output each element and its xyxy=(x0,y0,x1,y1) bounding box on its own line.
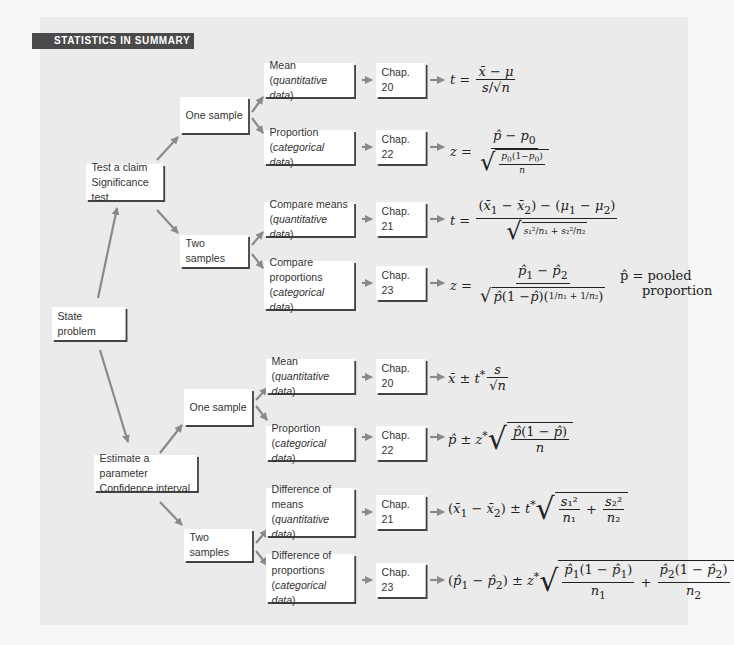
proportion-label: Proportion xyxy=(272,421,349,436)
ci-proportion-box: Proportion (categorical data) xyxy=(266,426,354,460)
chap-22-box: Chap. 22 xyxy=(376,426,426,460)
chap-20-box: Chap. 20 xyxy=(376,63,426,97)
chapter-label: Chap. 20 xyxy=(382,65,421,95)
data-type-label: categorical data xyxy=(272,437,327,464)
proportions-label: proportions xyxy=(272,563,349,578)
sig-compare-means-box: Compare means (quantitative data) xyxy=(264,202,354,236)
sig-proportion-box: Proportion (categorical data) xyxy=(264,130,354,164)
formula-ci-difference-proportions: (p̂1 − p̂2) ± z* √p̂1(1 − p̂1)n1 + p̂2(1… xyxy=(448,560,734,602)
sig-compare-proportions-box: Compare proportions (categorical data) xyxy=(264,261,354,309)
formula-t-one-sample: t = x̄ − μs/√n xyxy=(450,64,517,95)
chapter-label: Chap. 23 xyxy=(382,565,421,595)
sig-one-sample-box: One sample xyxy=(180,97,248,133)
chapter-label: Chap. 21 xyxy=(382,497,421,527)
chap-21-box: Chap. 21 xyxy=(376,202,426,236)
mean-label: Mean xyxy=(270,58,349,73)
estimate-parameter-label: Estimate a parameter xyxy=(100,451,192,481)
two-samples-label: Two samples xyxy=(186,236,243,266)
state-problem-label: State problem xyxy=(58,309,121,339)
mean-label: Mean xyxy=(272,354,349,369)
significance-test-box: Test a claim Significance test xyxy=(86,164,163,200)
chap-20-box: Chap. 20 xyxy=(376,359,426,393)
chapter-label: Chap. 23 xyxy=(382,268,421,298)
formula-ci-proportion: p̂ ± z* √p̂(1 − p̂)n xyxy=(448,422,573,455)
pooled-note-line2: proportion xyxy=(620,283,712,298)
ci-one-sample-box: One sample xyxy=(184,389,252,425)
sig-mean-box: Mean (quantitative data) xyxy=(264,63,354,97)
formula-ci-mean: x̄ ± t* s√n xyxy=(448,362,510,393)
one-sample-label: One sample xyxy=(190,400,247,415)
difference-label: Difference of xyxy=(272,548,349,563)
compare-label: Compare xyxy=(270,255,349,270)
means-label: means xyxy=(272,497,349,512)
ci-difference-proportions-box: Difference of proportions (categorical d… xyxy=(266,554,354,602)
chapter-label: Chap. 22 xyxy=(382,132,421,162)
data-type-label: categorical data xyxy=(272,579,327,606)
chap-23-box: Chap. 23 xyxy=(376,563,426,597)
significance-test-label: Significance test xyxy=(92,175,158,205)
data-type-label: quantitative data xyxy=(272,370,330,397)
confidence-interval-label: Confidence interval xyxy=(100,481,192,496)
data-type-label: quantitative data xyxy=(270,74,328,101)
confidence-interval-box: Estimate a parameter Confidence interval xyxy=(94,455,197,491)
difference-label: Difference of xyxy=(272,482,349,497)
proportions-label: proportions xyxy=(270,270,349,285)
pooled-proportion-note: p̂ = pooled proportion xyxy=(620,268,712,298)
state-problem-box: State problem xyxy=(52,307,126,340)
formula-z-two-proportion: z = p̂1 − p̂2√p̂(1 − p̂)(1/n₁ + 1/n₂) xyxy=(450,263,609,308)
proportion-label: Proportion xyxy=(270,125,349,140)
compare-means-label: Compare means xyxy=(270,197,349,212)
data-type-label: quantitative data xyxy=(272,513,330,540)
chapter-label: Chap. 22 xyxy=(382,428,421,458)
pooled-note-line1: p̂ = pooled xyxy=(620,268,712,283)
data-type-label: quantitative data xyxy=(270,213,328,240)
chap-22-box: Chap. 22 xyxy=(376,130,426,164)
formula-ci-difference-means: (x̄1 − x̄2) ± t* √s₁²n₁ + s₂²n₂ xyxy=(448,492,628,525)
chapter-label: Chap. 20 xyxy=(382,361,421,391)
two-samples-label: Two samples xyxy=(190,530,247,560)
data-type-label: categorical data xyxy=(270,286,325,313)
chap-23-box: Chap. 23 xyxy=(376,266,426,300)
formula-t-two-sample: t = (x̄1 − x̄2) − (μ1 − μ2)√s₁²/n₁ + s₂²… xyxy=(450,198,619,243)
data-type-label: categorical data xyxy=(270,141,325,168)
ci-two-samples-box: Two samples xyxy=(184,529,252,561)
chapter-label: Chap. 21 xyxy=(382,204,421,234)
chap-21-box: Chap. 21 xyxy=(376,495,426,529)
one-sample-label: One sample xyxy=(186,108,243,123)
ci-mean-box: Mean (quantitative data) xyxy=(266,359,354,393)
ci-difference-means-box: Difference of means (quantitative data) xyxy=(266,488,354,536)
formula-z-one-proportion: z = p̂ − p0√p0(1−p0)n xyxy=(450,128,553,175)
sig-two-samples-box: Two samples xyxy=(180,235,248,267)
test-claim-label: Test a claim xyxy=(92,160,158,175)
